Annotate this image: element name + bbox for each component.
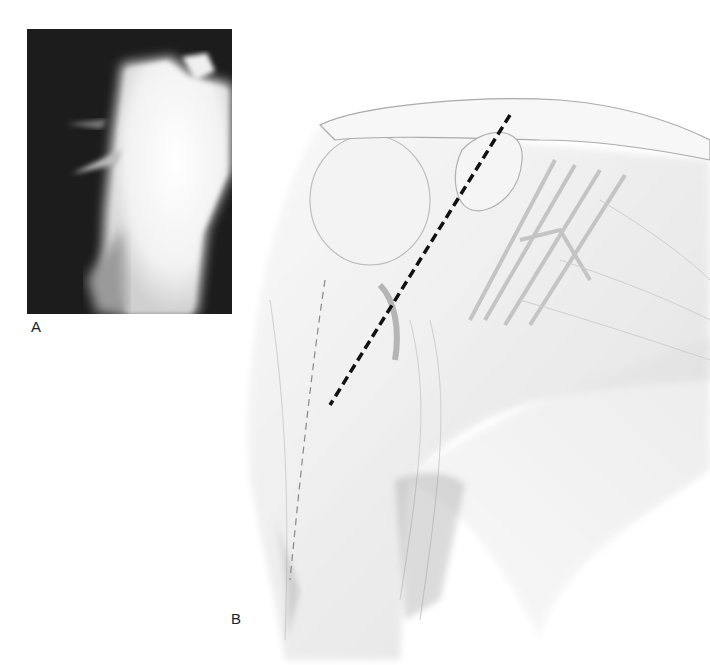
panel-label-a: A xyxy=(31,318,41,335)
panel-label-b: B xyxy=(231,610,241,627)
panel-b-illustration xyxy=(238,20,710,665)
panel-a-radiograph xyxy=(27,29,232,314)
shoulder-anatomy-illustration xyxy=(238,20,710,665)
xray-image xyxy=(27,29,232,314)
